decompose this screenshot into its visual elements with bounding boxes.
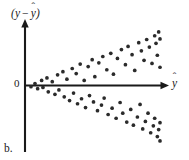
data-point xyxy=(82,79,86,83)
data-point xyxy=(57,88,61,92)
data-point xyxy=(90,58,94,62)
data-point xyxy=(105,68,109,72)
data-point xyxy=(138,103,142,107)
data-point xyxy=(158,139,162,143)
data-point xyxy=(152,124,156,128)
data-point xyxy=(114,116,118,120)
data-point xyxy=(124,63,128,67)
data-point xyxy=(96,109,100,113)
data-point xyxy=(142,58,146,62)
data-point xyxy=(88,94,92,98)
data-point xyxy=(70,67,74,71)
data-point xyxy=(157,128,161,132)
data-point xyxy=(136,115,140,119)
data-point xyxy=(80,97,84,101)
data-point xyxy=(120,48,124,52)
data-point xyxy=(101,55,105,59)
data-point xyxy=(33,82,37,86)
data-point xyxy=(141,127,145,131)
data-point xyxy=(100,103,104,107)
data-point xyxy=(118,101,122,105)
data-point xyxy=(155,53,159,57)
data-point xyxy=(29,85,33,89)
data-point xyxy=(86,65,90,69)
y-axis-arrowhead-icon xyxy=(21,19,28,28)
data-point xyxy=(158,37,162,41)
x-axis xyxy=(25,82,169,89)
data-point xyxy=(97,61,101,65)
data-point xyxy=(53,92,57,96)
x-axis-label: ̂y xyxy=(172,78,177,90)
panel-caption: b. xyxy=(4,143,13,155)
data-point xyxy=(40,79,44,83)
data-point xyxy=(106,113,110,117)
data-point xyxy=(137,41,141,45)
data-point xyxy=(150,62,154,66)
data-point xyxy=(112,72,116,76)
data-point xyxy=(78,62,82,66)
data-point xyxy=(62,95,66,99)
data-point xyxy=(133,69,137,73)
data-point xyxy=(41,86,45,90)
data-point xyxy=(61,70,65,74)
data-point xyxy=(36,87,40,91)
data-point xyxy=(68,99,72,103)
data-point xyxy=(155,135,159,139)
data-point xyxy=(130,53,134,57)
data-point xyxy=(45,76,49,80)
data-point xyxy=(92,100,96,104)
data-point xyxy=(126,45,130,49)
data-point xyxy=(56,73,60,77)
data-point xyxy=(72,91,76,95)
data-point xyxy=(110,106,114,110)
origin-tick-label: 0 xyxy=(14,78,20,89)
data-point xyxy=(145,38,149,42)
data-point xyxy=(129,108,133,112)
data-point xyxy=(153,34,157,38)
data-point xyxy=(146,111,150,115)
data-point xyxy=(157,30,161,34)
data-point xyxy=(116,57,120,61)
data-point xyxy=(149,131,153,135)
data-point xyxy=(102,96,106,100)
data-point xyxy=(144,120,148,124)
residual-plot-figure: (y − ̂y) ̂y 0 b. xyxy=(0,0,189,160)
y-axis-label: (y − ̂y) xyxy=(11,8,40,20)
data-point xyxy=(153,116,157,120)
data-point xyxy=(148,45,152,49)
data-point xyxy=(74,72,78,76)
data-point xyxy=(140,49,144,53)
data-point xyxy=(132,123,136,127)
data-point xyxy=(84,106,88,110)
data-point xyxy=(158,121,162,125)
data-point xyxy=(154,41,158,45)
data-point xyxy=(109,52,113,56)
data-point xyxy=(65,77,69,81)
data-point xyxy=(93,75,97,79)
data-point xyxy=(125,120,129,124)
residual-scatter-plot xyxy=(0,0,189,160)
x-axis-arrowhead-icon xyxy=(161,82,170,89)
data-point xyxy=(158,65,162,69)
data-point xyxy=(46,90,50,94)
data-point xyxy=(50,80,54,84)
data-point xyxy=(121,111,125,115)
data-point xyxy=(76,102,80,106)
